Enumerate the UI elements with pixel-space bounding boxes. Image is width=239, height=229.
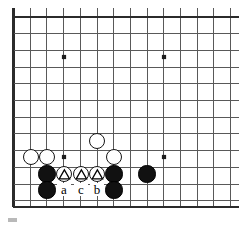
go-board-figure: acb	[0, 0, 239, 229]
point-label-b: b	[90, 183, 104, 196]
point-label-a: a	[57, 183, 71, 196]
star-upper-right	[162, 55, 166, 59]
black-stone[interactable]	[105, 165, 122, 182]
star-upper-left	[62, 55, 66, 59]
scan-speck	[8, 218, 17, 222]
star-lower-right	[162, 155, 166, 159]
star-lower-left	[62, 155, 66, 159]
black-stone[interactable]	[105, 181, 122, 198]
black-stone[interactable]	[38, 165, 55, 182]
point-label-c: c	[74, 183, 88, 196]
black-stone[interactable]	[38, 181, 55, 198]
black-stone[interactable]	[138, 165, 155, 182]
